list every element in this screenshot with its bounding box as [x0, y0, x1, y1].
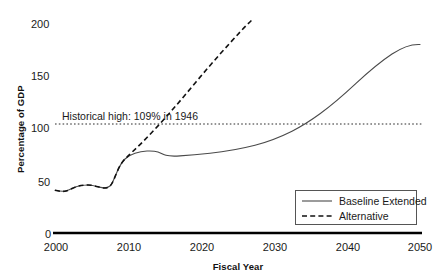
- x-tick-label-2020: 2020: [190, 241, 214, 253]
- chart-container: 200 150 100 50 0 2000 2010 2020 2030 204…: [0, 0, 440, 278]
- x-axis-title: Fiscal Year: [213, 261, 264, 272]
- y-tick-label-200: 200: [31, 18, 49, 30]
- x-tick-label-2030: 2030: [263, 241, 287, 253]
- y-tick-label-150: 150: [31, 70, 49, 82]
- y-tick-label-50: 50: [38, 176, 50, 188]
- legend-item-alternative: Alternative: [301, 209, 389, 223]
- y-tick-label-0: 0: [45, 228, 51, 240]
- legend-solid-line-icon: [301, 196, 333, 206]
- legend-item-baseline-extended: Baseline Extended: [301, 194, 427, 208]
- legend-label-alternative: Alternative: [339, 210, 389, 222]
- chart-legend: Baseline Extended Alternative: [295, 190, 417, 225]
- y-tick-label-100: 100: [31, 122, 49, 134]
- legend-label-baseline-extended: Baseline Extended: [339, 195, 427, 207]
- chart-plot-area: [0, 0, 440, 278]
- x-tick-label-2000: 2000: [44, 241, 68, 253]
- series-line-alternative: [55, 20, 252, 191]
- legend-dashed-line-icon: [301, 211, 333, 221]
- historical-high-annotation-label: Historical high: 109% in 1946: [62, 110, 198, 122]
- x-tick-label-2050: 2050: [408, 241, 432, 253]
- y-axis-title: Percentage of GDP: [15, 85, 26, 173]
- x-tick-label-2040: 2040: [336, 241, 360, 253]
- x-tick-label-2010: 2010: [117, 241, 141, 253]
